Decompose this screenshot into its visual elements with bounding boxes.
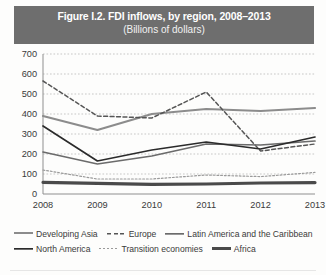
x-axis-tick-label: 2012 — [250, 200, 270, 210]
y-axis-tick-label: 500 — [22, 89, 37, 99]
legend-swatch-icon — [99, 245, 118, 252]
y-axis-tick-label: 400 — [22, 109, 37, 119]
legend-swatch-icon — [14, 245, 33, 252]
legend-swatch-icon — [107, 230, 126, 237]
legend-item-north-america[interactable]: North America — [14, 244, 90, 254]
series-line-transition-economies — [43, 170, 315, 179]
figure-subtitle: (Billions of dollars) — [14, 23, 314, 36]
figure-title: Figure I.2. FDI inflows, by region, 2008… — [14, 10, 314, 23]
legend-label: Transition economies — [121, 244, 202, 254]
legend-item-africa[interactable]: Africa — [212, 244, 256, 254]
legend-row: North AmericaTransition economiesAfrica — [0, 241, 326, 256]
y-axis-tick-label: 100 — [22, 169, 37, 179]
legend-item-developing-asia[interactable]: Developing Asia — [14, 229, 98, 239]
legend-label: North America — [36, 244, 90, 254]
bottom-divider — [10, 270, 316, 271]
chart-legend: Developing AsiaEuropeLatin America and t… — [0, 226, 326, 270]
x-axis-tick-label: 2013 — [305, 200, 325, 210]
legend-swatch-icon — [14, 230, 33, 237]
figure-container: Figure I.2. FDI inflows, by region, 2008… — [0, 0, 326, 275]
y-axis-tick-label: 600 — [22, 69, 37, 79]
legend-label: Africa — [234, 244, 256, 254]
x-axis-tick-label: 2009 — [87, 200, 107, 210]
chart-plot-area: 0100200300400500600700200820092010201120… — [0, 46, 326, 226]
series-line-europe — [43, 81, 315, 151]
x-axis-tick-label: 2011 — [196, 200, 216, 210]
y-axis-tick-label: 700 — [22, 49, 37, 59]
series-line-developing-asia — [43, 108, 315, 130]
y-axis-tick-label: 200 — [22, 149, 37, 159]
y-axis-tick-label: 0 — [32, 189, 37, 199]
legend-item-latin-america-and-the-caribbean[interactable]: Latin America and the Caribbean — [165, 229, 312, 239]
legend-swatch-icon — [165, 230, 184, 237]
legend-label: Latin America and the Caribbean — [187, 229, 312, 239]
legend-item-europe[interactable]: Europe — [107, 229, 157, 239]
legend-label: Europe — [129, 229, 157, 239]
y-axis-tick-label: 300 — [22, 129, 37, 139]
series-line-africa — [43, 182, 315, 184]
x-axis-tick-label: 2010 — [142, 200, 162, 210]
legend-label: Developing Asia — [36, 229, 98, 239]
legend-item-transition-economies[interactable]: Transition economies — [99, 244, 202, 254]
x-axis-tick-label: 2008 — [33, 200, 53, 210]
legend-row: Developing AsiaEuropeLatin America and t… — [0, 226, 326, 241]
legend-swatch-icon — [212, 245, 231, 252]
figure-title-band: Figure I.2. FDI inflows, by region, 2008… — [14, 6, 314, 44]
line-chart-svg: 0100200300400500600700200820092010201120… — [0, 46, 326, 226]
